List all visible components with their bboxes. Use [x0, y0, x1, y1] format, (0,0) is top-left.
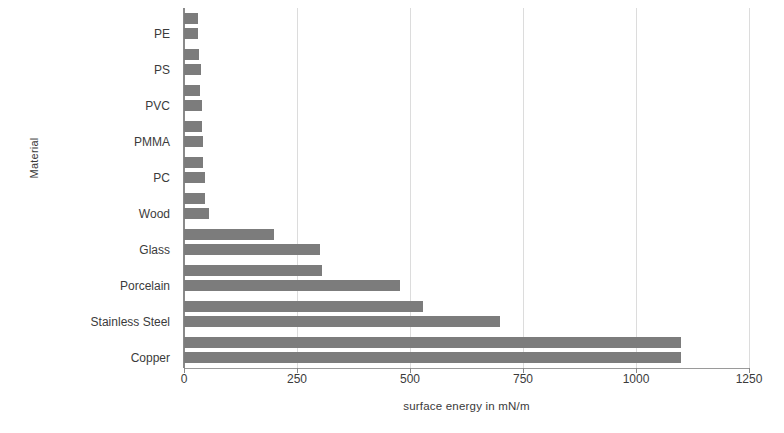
y-axis-tick-labels: PEPSPVCPMMAPCWoodGlassPorcelainStainless…	[0, 8, 178, 368]
bar-group	[184, 188, 749, 224]
y-tick-label: Wood	[139, 207, 170, 221]
y-tick-label: Glass	[139, 243, 170, 257]
bar-chart: Material PEPSPVCPMMAPCWoodGlassPorcelain…	[0, 0, 784, 433]
x-axis-title: surface energy in mN/m	[184, 400, 749, 412]
bar[interactable]	[184, 49, 199, 60]
x-tick-label: 1000	[623, 372, 650, 386]
x-tick-0	[184, 368, 185, 373]
bar[interactable]	[184, 172, 205, 183]
bar[interactable]	[184, 193, 205, 204]
x-tick-1000	[636, 368, 637, 373]
bar-group	[184, 116, 749, 152]
gridline-1250	[749, 8, 750, 368]
x-tick-label: 750	[513, 372, 533, 386]
bar[interactable]	[184, 85, 200, 96]
bar[interactable]	[184, 157, 203, 168]
y-tick-label: Copper	[131, 351, 170, 365]
y-tick-label: PC	[153, 171, 170, 185]
bar[interactable]	[184, 121, 202, 132]
x-tick-label: 500	[400, 372, 420, 386]
bar[interactable]	[184, 301, 423, 312]
plot-area	[184, 8, 749, 368]
bar-group	[184, 296, 749, 332]
x-tick-750	[523, 368, 524, 373]
bar[interactable]	[184, 265, 322, 276]
y-tick-label: PVC	[145, 99, 170, 113]
x-axis-tick-labels: 025050075010001250	[184, 372, 749, 390]
x-tick-label: 0	[181, 372, 188, 386]
bar[interactable]	[184, 208, 209, 219]
y-tick-label: PMMA	[134, 135, 170, 149]
bar-group	[184, 332, 749, 368]
x-axis-line	[184, 368, 750, 369]
bar-group	[184, 224, 749, 260]
y-tick-label: PS	[154, 63, 170, 77]
bar-group	[184, 260, 749, 296]
y-tick-label: Stainless Steel	[91, 315, 170, 329]
bar[interactable]	[184, 28, 198, 39]
bar-series-group	[184, 8, 749, 368]
bar[interactable]	[184, 244, 320, 255]
bar[interactable]	[184, 136, 203, 147]
bar-group	[184, 80, 749, 116]
y-tick-label: Porcelain	[120, 279, 170, 293]
x-tick-label: 250	[287, 372, 307, 386]
bar[interactable]	[184, 13, 198, 24]
x-tick-label: 1250	[736, 372, 763, 386]
bar[interactable]	[184, 280, 400, 291]
y-tick-label: PE	[154, 27, 170, 41]
bar-group	[184, 8, 749, 44]
bar[interactable]	[184, 100, 202, 111]
bar[interactable]	[184, 64, 201, 75]
x-tick-500	[410, 368, 411, 373]
x-tick-250	[297, 368, 298, 373]
bar[interactable]	[184, 337, 681, 348]
bar-group	[184, 44, 749, 80]
bar[interactable]	[184, 316, 500, 327]
x-tick-1250	[749, 368, 750, 373]
bar[interactable]	[184, 352, 681, 363]
bar[interactable]	[184, 229, 274, 240]
bar-group	[184, 152, 749, 188]
